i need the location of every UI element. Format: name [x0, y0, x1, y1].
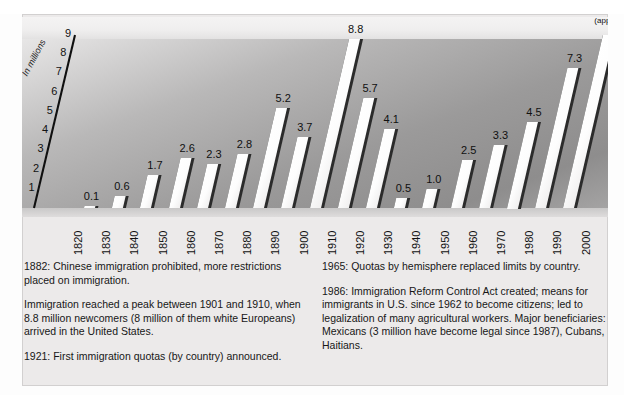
bar [169, 158, 183, 208]
bar [394, 198, 408, 208]
bar [366, 129, 380, 208]
x-axis-tick: 1920 [354, 231, 366, 255]
caption-paragraph: 1965: Quotas by hemisphere replaced limi… [322, 260, 606, 274]
bar-value-label: 0.6 [105, 180, 139, 192]
plot-area: In millions 123456789 0.10.61.72.62.32.8… [22, 17, 608, 217]
x-axis-tick: 1970 [495, 231, 507, 255]
bar [112, 196, 126, 208]
caption-paragraph: 1921: First immigration quotas (by count… [24, 350, 308, 364]
bar [338, 98, 352, 208]
immigration-chart-figure: In millions 123456789 0.10.61.72.62.32.8… [0, 0, 624, 395]
bars-layer: 0.10.61.72.62.32.85.23.78.85.74.10.51.02… [22, 17, 608, 217]
bar-value-label: 1.0 [417, 173, 451, 185]
bar-face [479, 145, 505, 208]
x-axis-tick: 2000 [580, 231, 592, 255]
bar-value-label: 0.5 [386, 182, 420, 194]
bar [422, 189, 436, 208]
x-axis-tick: 1850 [157, 231, 169, 255]
x-axis-tick: 1940 [410, 231, 422, 255]
bar [563, 35, 577, 208]
bar [84, 206, 98, 208]
bar [535, 68, 549, 208]
bar [197, 164, 211, 208]
caption-paragraph: 1986: Immigration Reform Control Act cre… [322, 285, 606, 353]
bar-value-label: 9.0(approx.) [593, 17, 608, 25]
x-axis-tick: 1880 [241, 231, 253, 255]
x-axis-tick: 1990 [551, 231, 563, 255]
x-axis-tick: 1900 [298, 231, 310, 255]
bar-value-label: 0.1 [74, 190, 108, 202]
x-axis-tick: 1840 [128, 231, 140, 255]
bar [140, 175, 154, 208]
x-axis-tick: 1830 [100, 231, 112, 255]
bar-value-label: 1.7 [138, 159, 172, 171]
x-axis-tick: 1960 [467, 231, 479, 255]
x-axis-tick: 1950 [439, 231, 451, 255]
caption-column-left: 1882: Chinese immigration prohibited, mo… [24, 260, 308, 386]
x-axis-tick: 1910 [326, 231, 338, 255]
bar-value-label: 4.1 [374, 113, 408, 125]
bar [507, 122, 521, 209]
x-axis-tick: 1860 [185, 231, 197, 255]
bar-value-label: 5.2 [266, 92, 300, 104]
bar [479, 145, 493, 208]
x-axis-tick: 1820 [72, 231, 84, 255]
bar-face [84, 206, 95, 208]
x-axis-tick: 1870 [213, 231, 225, 255]
bar [451, 160, 465, 208]
bar [225, 154, 239, 208]
bar-value-label: 5.7 [353, 82, 387, 94]
x-axis-tick-group: 1820183018401850186018701880189019001910… [22, 217, 608, 259]
bar [253, 108, 267, 208]
bar-value-approx-note: (approx.) [593, 17, 608, 25]
x-axis-tick: 1980 [523, 231, 535, 255]
caption-paragraph: Immigration reached a peak between 1901 … [24, 298, 308, 339]
title-sliver [0, 0, 624, 14]
bar-value-label: 8.8 [339, 23, 373, 35]
bar [310, 39, 324, 208]
caption-paragraph: 1882: Chinese immigration prohibited, mo… [24, 260, 308, 287]
x-axis-tick: 1890 [269, 231, 281, 255]
caption-area: 1882: Chinese immigration prohibited, mo… [24, 260, 606, 386]
caption-column-right: 1965: Quotas by hemisphere replaced limi… [322, 260, 606, 386]
x-axis-tick: 1930 [382, 231, 394, 255]
bar [281, 137, 295, 208]
